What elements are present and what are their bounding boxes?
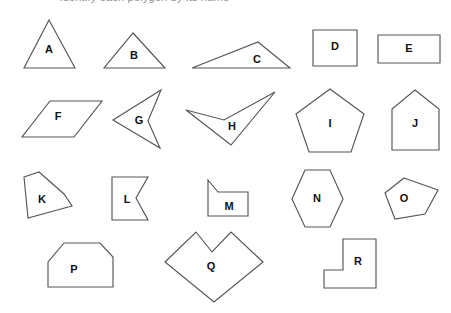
polygon-c-obtuse-scalene-triangle — [192, 42, 290, 68]
polygon-label-e: E — [405, 42, 412, 54]
polygon-label-d: D — [331, 40, 339, 52]
polygon-label-g: G — [135, 114, 144, 126]
polygon-p-clipped-corner-hexagon — [48, 243, 113, 287]
polygon-worksheet: identify each polygon by its name ABCDEF… — [0, 0, 451, 313]
polygon-label-l: L — [124, 193, 131, 205]
polygon-k-irregular-pentagon — [24, 172, 72, 218]
polygon-label-k: K — [38, 193, 46, 205]
polygon-label-j: J — [412, 117, 418, 129]
polygon-label-h: H — [228, 120, 236, 132]
polygon-label-c: C — [253, 53, 261, 65]
polygon-label-i: I — [328, 117, 331, 129]
polygon-label-m: M — [224, 200, 233, 212]
shape-canvas: ABCDEFGHIJKLMNOPQR — [0, 0, 451, 313]
polygon-label-p: P — [70, 263, 77, 275]
polygon-label-o: O — [400, 192, 409, 204]
polygon-label-n: N — [313, 192, 321, 204]
polygon-label-f: F — [55, 110, 62, 122]
polygon-label-b: B — [130, 49, 138, 61]
polygon-o-irregular-pentagon-rounded — [385, 178, 438, 219]
polygon-f-parallelogram — [22, 101, 102, 137]
polygon-r-l-shaped-hexagon — [324, 239, 376, 288]
polygon-h-concave-arrowhead-quadrilateral — [186, 92, 275, 145]
polygon-label-a: A — [45, 43, 53, 55]
polygon-label-q: Q — [207, 260, 216, 272]
polygon-label-r: R — [354, 255, 362, 267]
